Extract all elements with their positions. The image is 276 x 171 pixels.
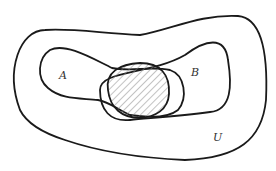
intersection-hatch	[108, 63, 169, 118]
set-a-label: A	[59, 70, 67, 81]
set-u-label: U	[213, 132, 222, 143]
set-b-label: B	[191, 67, 199, 78]
venn-diagram	[0, 0, 276, 171]
